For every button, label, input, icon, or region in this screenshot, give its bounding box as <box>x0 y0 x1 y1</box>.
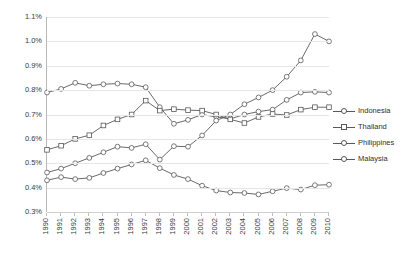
x-axis-tick-mark <box>314 213 315 216</box>
data-point-marker <box>298 58 303 63</box>
x-axis-tick-label: 1990 <box>42 218 50 235</box>
x-axis-tick-mark <box>187 213 188 216</box>
x-axis-tick-label: 1992 <box>70 218 78 235</box>
data-point-marker <box>313 32 318 37</box>
data-point-marker <box>186 108 191 113</box>
gridline <box>47 90 329 91</box>
legend-item-philippines[interactable]: Philippines <box>333 135 411 151</box>
data-point-marker <box>186 144 191 149</box>
y-axis-tick-label: 0.9% <box>2 62 42 70</box>
data-point-marker <box>45 148 50 153</box>
x-axis-tick-label: 2001 <box>197 218 205 235</box>
legend-item-malaysia[interactable]: Malaysia <box>333 151 411 167</box>
chart-legend: IndonesiaThailandPhilippinesMalaysia <box>333 103 411 167</box>
data-point-marker <box>327 182 332 187</box>
x-axis-tick-label: 1999 <box>169 218 177 235</box>
legend-marker-icon <box>333 106 355 116</box>
data-point-marker <box>299 107 304 112</box>
legend-label: Philippines <box>355 139 394 147</box>
data-point-marker <box>228 190 233 195</box>
data-point-marker <box>115 144 120 149</box>
data-point-marker <box>200 133 205 138</box>
y-axis-tick-label: 0.4% <box>2 184 42 192</box>
x-axis-tick-mark <box>88 213 89 216</box>
data-point-marker <box>73 177 78 182</box>
x-axis-tick-mark <box>215 213 216 216</box>
x-axis-tick-label: 1993 <box>85 218 93 235</box>
data-point-marker <box>172 173 177 178</box>
gridline <box>47 66 329 67</box>
data-point-marker <box>158 108 163 113</box>
data-point-marker <box>172 107 177 112</box>
x-axis-tick-label: 1991 <box>56 218 64 235</box>
legend-label: Indonesia <box>355 107 391 115</box>
x-axis-tick-label: 2006 <box>268 218 276 235</box>
legend-label: Thailand <box>355 123 387 131</box>
data-point-marker <box>143 158 148 163</box>
data-point-marker <box>87 83 92 88</box>
x-axis-tick-label: 2007 <box>282 218 290 235</box>
data-point-marker <box>101 150 106 155</box>
data-point-marker <box>87 155 92 160</box>
x-axis-tick-mark <box>286 213 287 216</box>
data-point-marker <box>242 121 247 126</box>
y-axis-tick-label: 0.5% <box>2 160 42 168</box>
data-point-marker <box>256 109 261 114</box>
data-point-marker <box>59 143 64 148</box>
x-axis-tick-label: 2002 <box>211 218 219 235</box>
gridline <box>47 163 329 164</box>
data-point-marker <box>129 82 134 87</box>
data-point-marker <box>157 166 162 171</box>
x-axis-tick-label: 2010 <box>324 218 332 235</box>
data-point-marker <box>45 178 50 183</box>
plot-area <box>46 17 328 212</box>
gridline <box>47 115 329 116</box>
x-axis-tick-mark <box>229 213 230 216</box>
legend-item-thailand[interactable]: Thailand <box>333 119 411 135</box>
data-point-marker <box>284 74 289 79</box>
data-point-marker <box>270 107 275 112</box>
gridline <box>47 139 329 140</box>
x-axis: 1990199119921993199419951996199719981999… <box>46 213 328 268</box>
gridline <box>47 188 329 189</box>
x-axis-tick-mark <box>74 213 75 216</box>
data-point-marker <box>172 144 177 149</box>
data-point-marker <box>242 102 247 107</box>
x-axis-tick-label: 1994 <box>99 218 107 235</box>
x-axis-tick-mark <box>131 213 132 216</box>
x-axis-tick-label: 2003 <box>226 218 234 235</box>
x-axis-tick-mark <box>328 213 329 216</box>
y-axis-tick-label: 1.0% <box>2 38 42 46</box>
data-point-marker <box>73 80 78 85</box>
line-chart: 1.1%1.0%0.9%0.8%0.7%0.6%0.5%0.4%0.3% 199… <box>0 0 411 268</box>
x-axis-tick-mark <box>145 213 146 216</box>
data-point-marker <box>115 117 120 122</box>
data-point-marker <box>143 142 148 147</box>
data-point-marker <box>256 192 261 197</box>
data-point-marker <box>59 166 64 171</box>
y-axis-tick-label: 0.6% <box>2 135 42 143</box>
data-point-marker <box>270 189 275 194</box>
y-axis-tick-label: 0.3% <box>2 208 42 216</box>
data-point-marker <box>214 118 219 123</box>
data-point-marker <box>59 175 64 180</box>
x-axis-tick-label: 2004 <box>240 218 248 235</box>
legend-item-indonesia[interactable]: Indonesia <box>333 103 411 119</box>
legend-label: Malaysia <box>355 155 388 163</box>
data-point-marker <box>115 166 120 171</box>
legend-marker-icon <box>333 154 355 164</box>
x-axis-tick-label: 1996 <box>127 218 135 235</box>
data-point-marker <box>101 171 106 176</box>
data-point-marker <box>228 117 233 122</box>
x-axis-tick-mark <box>159 213 160 216</box>
x-axis-tick-label: 2008 <box>296 218 304 235</box>
x-axis-tick-mark <box>300 213 301 216</box>
data-point-marker <box>101 82 106 87</box>
x-axis-tick-mark <box>201 213 202 216</box>
data-point-marker <box>143 98 148 103</box>
gridline <box>47 41 329 42</box>
x-axis-tick-mark <box>173 213 174 216</box>
gridline <box>47 17 329 18</box>
x-axis-tick-mark <box>272 213 273 216</box>
data-point-marker <box>101 123 106 128</box>
